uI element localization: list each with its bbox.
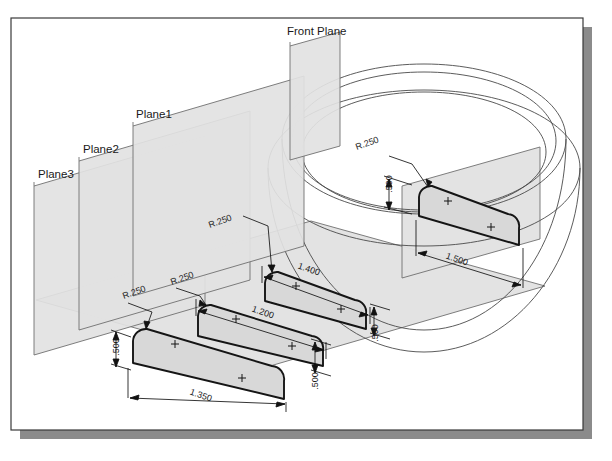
dim-500-b[interactable]: .500 bbox=[310, 372, 320, 390]
plane-label-plane2: Plane2 bbox=[83, 143, 119, 155]
dim-500-d[interactable]: .500 bbox=[384, 175, 394, 193]
plane-front-plane[interactable] bbox=[290, 32, 340, 160]
plane-label-front-plane: Front Plane bbox=[287, 25, 346, 37]
dim-500-a[interactable]: .500 bbox=[111, 338, 121, 356]
cad-scene: Plane3 Plane2 Plane1 Front Plane R.250R.… bbox=[0, 0, 612, 461]
plane-label-plane3: Plane3 bbox=[38, 168, 74, 180]
cad-drawing-canvas: Plane3 Plane2 Plane1 Front Plane R.250R.… bbox=[0, 0, 612, 461]
dim-500-c[interactable]: .500 bbox=[370, 324, 380, 342]
plane-label-plane1: Plane1 bbox=[136, 108, 172, 120]
